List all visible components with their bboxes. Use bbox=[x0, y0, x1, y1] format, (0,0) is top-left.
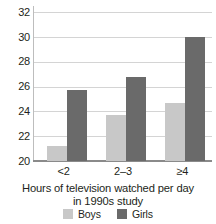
x-tick-label: ≥4 bbox=[153, 165, 212, 178]
y-tick-label: 26 bbox=[4, 81, 30, 92]
legend-item-boys[interactable]: Boys bbox=[63, 209, 101, 220]
bars-layer bbox=[34, 6, 212, 161]
x-axis-title-line-1: Hours of television watched per day bbox=[0, 182, 216, 195]
legend-label-boys: Boys bbox=[78, 209, 101, 220]
legend: Boys Girls bbox=[0, 209, 216, 220]
bar-chart: 20222426283032 <22–3≥4 Hours of televisi… bbox=[0, 0, 216, 224]
y-tick-label: 22 bbox=[4, 131, 30, 142]
bar-girls-2 bbox=[185, 37, 205, 161]
legend-swatch-girls-icon bbox=[117, 209, 127, 219]
x-axis-title: Hours of television watched per day in 1… bbox=[0, 182, 216, 207]
y-tick-label: 30 bbox=[4, 32, 30, 43]
y-tick-label: 32 bbox=[4, 7, 30, 18]
legend-item-girls[interactable]: Girls bbox=[117, 209, 153, 220]
legend-label-girls: Girls bbox=[132, 209, 153, 220]
bar-girls-0 bbox=[67, 90, 87, 161]
x-axis-title-line-2: in 1990s study bbox=[0, 195, 216, 208]
x-tick-label: <2 bbox=[34, 165, 93, 178]
y-tick-label: 20 bbox=[4, 156, 30, 167]
bar-boys-0 bbox=[47, 146, 67, 161]
bar-girls-1 bbox=[126, 77, 146, 161]
bar-boys-1 bbox=[106, 115, 126, 161]
x-tick-label: 2–3 bbox=[93, 165, 152, 178]
legend-swatch-boys-icon bbox=[63, 209, 73, 219]
y-tick-label: 24 bbox=[4, 106, 30, 117]
y-tick-label: 28 bbox=[4, 56, 30, 67]
bar-boys-2 bbox=[165, 103, 185, 161]
x-axis-ticks: <22–3≥4 bbox=[34, 165, 212, 181]
